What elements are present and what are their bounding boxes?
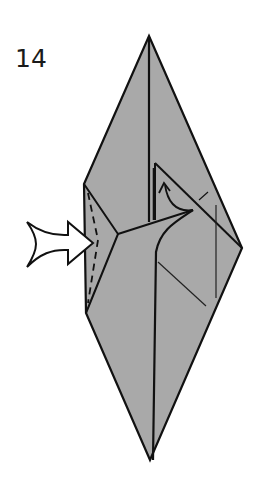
model-body [84,36,242,460]
origami-diagram [0,0,272,487]
push-arrow-icon [27,222,93,267]
